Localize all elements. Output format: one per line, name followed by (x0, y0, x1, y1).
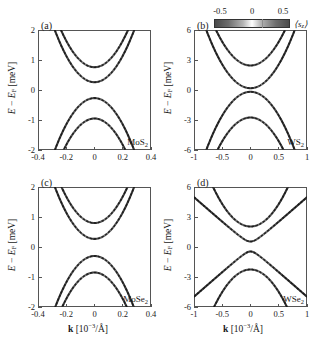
band-marker-overlay-conduction-outer (38, 187, 151, 223)
band-marker-overlay-conduction-inner (194, 197, 307, 241)
xtick-mark (194, 147, 195, 151)
xtick-label-d-4: 1 (305, 310, 309, 319)
xtick-mark (38, 304, 39, 308)
xtick-mark (66, 304, 67, 308)
panel-c-bands (38, 187, 151, 307)
colorbar-tick-labels: -0.5 0 0.5 (214, 6, 290, 18)
material-name: WSe (283, 294, 301, 304)
xtick-mark (278, 147, 279, 151)
ylabel-E: E (163, 108, 173, 114)
xtick-mark (151, 147, 152, 151)
colorbar-gradient (214, 19, 290, 28)
xtick-label-b-1: -0.5 (216, 153, 229, 162)
ylabel-minus: − (163, 98, 173, 108)
colorbar-title-open: ⟨s (294, 19, 302, 29)
ytick-label-a-3: -1 (14, 116, 35, 125)
ytick-mark (38, 187, 42, 188)
ytick-label-a-2: 0 (14, 86, 35, 95)
ytick-mark (194, 30, 198, 31)
ytick-mark (38, 307, 42, 308)
ytick-mark (38, 217, 42, 218)
panel-d-material-label: WSe2 (283, 295, 304, 306)
xtick-label-b-3: 0.5 (273, 153, 284, 162)
xtick-mark (250, 304, 251, 308)
xtick-label-b-2: 0 (248, 153, 252, 162)
ytick-label-b-4: -6 (170, 146, 191, 155)
ytick-mark (38, 120, 42, 121)
colorbar-title: ⟨sz⟩ (294, 19, 308, 29)
xtick-mark (307, 147, 308, 151)
xtick-mark (122, 304, 123, 308)
band-marker-overlay-conduction-inner (38, 30, 151, 82)
ytick-mark (194, 120, 198, 121)
ytick-mark (194, 247, 198, 248)
ylabel-minus: − (163, 255, 173, 265)
material-sub: 2 (145, 297, 148, 304)
xtick-label-a-0: -0.4 (31, 153, 44, 162)
panel-b-tag: (b) (197, 21, 209, 31)
ytick-label-b-3: -3 (170, 116, 191, 125)
band-curve-conduction-inner (38, 187, 151, 239)
xtick-mark (151, 304, 152, 308)
colorbar-tick-1: 0 (250, 6, 254, 16)
material-name: MoS (127, 137, 145, 147)
xtick-label-a-4: 0.4 (146, 153, 157, 162)
band-marker-overlay-conduction-inner (194, 30, 307, 88)
xtick-label-c-3: 0.2 (117, 310, 128, 319)
ytick-mark (38, 150, 42, 151)
panel-a-tag: (a) (41, 21, 52, 31)
ytick-mark (38, 90, 42, 91)
ytick-label-b-0: 6 (170, 26, 191, 35)
xtick-mark (38, 147, 39, 151)
ylabel-minus: − (7, 98, 17, 108)
xtick-mark (222, 304, 223, 308)
panel-a-bands (38, 30, 151, 150)
band-curve-conduction-outer (194, 187, 307, 227)
xlabel-unit-open: [10 (73, 324, 88, 334)
ytick-label-a-0: 2 (14, 26, 35, 35)
ytick-mark (194, 187, 198, 188)
colorbar-tick-0: -0.5 (213, 6, 226, 16)
colorbar-title-close: ⟩ (304, 19, 308, 29)
band-marker-overlay-conduction-inner (38, 187, 151, 239)
ytick-label-d-2: 0 (170, 243, 191, 252)
xtick-label-c-4: 0.4 (146, 310, 157, 319)
panel-a: MoS2 (38, 30, 151, 150)
material-sub: 2 (301, 297, 304, 304)
xlabel-left: k [10−3/Å] (68, 322, 108, 334)
material-sub: 2 (145, 140, 148, 147)
band-curve-conduction-outer (194, 30, 307, 66)
xtick-mark (94, 147, 95, 151)
panel-d-bands (194, 187, 307, 307)
panel-c: MoSe2 (38, 187, 151, 307)
xlabel-unit-close: /Å] (95, 324, 108, 334)
ytick-mark (194, 150, 198, 151)
material-sub: 2 (301, 140, 304, 147)
band-curve-conduction-outer (38, 187, 151, 223)
panel-b: WS2 (194, 30, 307, 150)
ytick-label-a-1: 1 (14, 56, 35, 65)
material-name: WS (287, 137, 301, 147)
ytick-mark (194, 60, 198, 61)
band-curve-conduction-inner (194, 197, 307, 241)
ytick-mark (194, 307, 198, 308)
band-curve-valence-inner (194, 252, 307, 297)
xtick-label-a-2: 0 (92, 153, 96, 162)
panel-c-tag: (c) (41, 178, 52, 188)
figure-canvas: -0.5 0 0.5 ⟨sz⟩ E − EF [meV] E − EF [meV… (0, 0, 316, 344)
xlabel-unit-close: /Å] (250, 324, 263, 334)
panel-a-material-label: MoS2 (127, 138, 148, 149)
xtick-label-a-1: -0.2 (60, 153, 73, 162)
band-marker-overlay-conduction-outer (38, 30, 151, 67)
xtick-mark (307, 304, 308, 308)
ytick-mark (38, 277, 42, 278)
band-curve-conduction-inner (38, 30, 151, 82)
xtick-label-c-1: -0.2 (60, 310, 73, 319)
ytick-label-d-3: -3 (170, 273, 191, 282)
ytick-mark (38, 247, 42, 248)
colorbar-center-mark (262, 19, 263, 28)
ytick-mark (194, 90, 198, 91)
panel-b-material-label: WS2 (287, 138, 304, 149)
material-name: MoSe (123, 294, 145, 304)
panel-d: WSe2 (194, 187, 307, 307)
